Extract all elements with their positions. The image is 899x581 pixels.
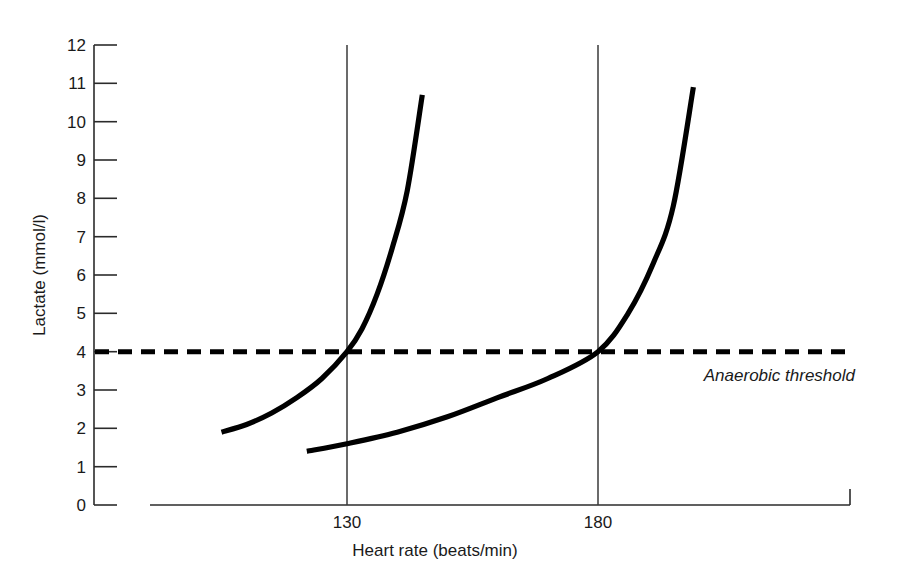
y-axis-title: Lactate (mmol/l) (30, 214, 49, 336)
x-tick-label-180: 180 (584, 513, 612, 532)
lactate-curve-2 (307, 87, 694, 451)
lactate-threshold-chart: 12 11 10 9 8 7 6 5 4 3 2 1 0 Lactate (mm… (0, 0, 899, 581)
y-tick-label-10: 10 (67, 113, 86, 132)
y-tick-label-6: 6 (77, 266, 86, 285)
y-axis-tick-labels: 12 11 10 9 8 7 6 5 4 3 2 1 0 (67, 36, 86, 515)
lactate-curve-1 (222, 95, 423, 432)
y-tick-label-9: 9 (77, 151, 86, 170)
chart-canvas: 12 11 10 9 8 7 6 5 4 3 2 1 0 Lactate (mm… (0, 0, 899, 581)
anaerobic-threshold-label: Anaerobic threshold (703, 366, 856, 385)
y-tick-label-11: 11 (68, 74, 86, 93)
y-tick-label-3: 3 (77, 381, 86, 400)
y-tick-label-5: 5 (77, 304, 86, 323)
y-tick-label-7: 7 (77, 228, 86, 247)
lactate-curves (222, 87, 694, 451)
y-tick-label-1: 1 (77, 458, 86, 477)
y-tick-label-0: 0 (77, 496, 86, 515)
y-tick-label-4: 4 (77, 343, 86, 362)
x-tick-label-130: 130 (333, 513, 361, 532)
y-tick-label-8: 8 (77, 189, 86, 208)
y-axis-ticks (94, 45, 117, 505)
y-tick-label-12: 12 (67, 36, 86, 55)
x-axis-title: Heart rate (beats/min) (352, 541, 517, 560)
y-tick-label-2: 2 (77, 419, 86, 438)
